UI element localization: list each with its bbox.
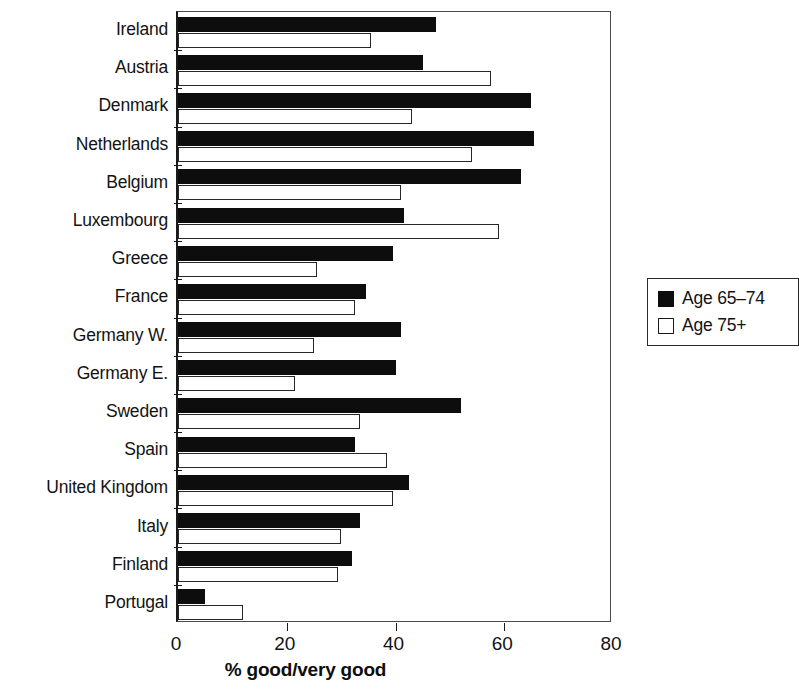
legend-entry-age-75-plus: Age 75+ (658, 312, 798, 339)
x-axis-tick-label-80: 80 (581, 633, 641, 655)
y-axis-tick (174, 508, 182, 509)
bar-spain-age-65-74 (178, 437, 355, 452)
bar-finland-age-65-74 (178, 551, 352, 566)
x-axis-tick-label-40: 40 (364, 633, 424, 655)
legend-label: Age 75+ (682, 315, 746, 336)
filled-square-icon (658, 291, 674, 307)
y-axis-tick (174, 203, 182, 204)
legend-label: Age 65–74 (682, 288, 765, 309)
x-axis-title: % good/very good (0, 659, 611, 681)
x-axis-tick-label-20: 20 (255, 633, 315, 655)
y-axis-tick (174, 470, 182, 471)
plot-area (176, 11, 611, 622)
x-axis-tick-60 (504, 623, 505, 631)
bar-portugal-age-65-74 (178, 589, 205, 604)
bar-germany-w--age-65-74 (178, 322, 401, 337)
category-label-finland: Finland (0, 554, 168, 575)
bar-austria-age-75-plus (178, 71, 491, 86)
chart-legend: Age 65–74Age 75+ (647, 278, 799, 346)
category-label-germany-w-: Germany W. (0, 325, 168, 346)
bar-finland-age-75-plus (178, 567, 338, 582)
y-axis-tick (174, 279, 182, 280)
legend-entry-age-65-74: Age 65–74 (658, 285, 798, 312)
y-axis-tick (174, 432, 182, 433)
bar-netherlands-age-65-74 (178, 131, 534, 146)
bar-denmark-age-65-74 (178, 93, 531, 108)
x-axis-tick-40 (396, 623, 397, 631)
x-axis-tick-20 (287, 623, 288, 631)
bar-belgium-age-75-plus (178, 185, 401, 200)
category-label-ireland: Ireland (0, 19, 168, 40)
bar-germany-e--age-65-74 (178, 360, 396, 375)
category-label-germany-e-: Germany E. (0, 363, 168, 384)
bar-france-age-65-74 (178, 284, 366, 299)
bar-sweden-age-75-plus (178, 414, 360, 429)
bar-sweden-age-65-74 (178, 398, 461, 413)
bar-germany-w--age-75-plus (178, 338, 314, 353)
outlined-square-icon (658, 318, 674, 334)
bar-greece-age-65-74 (178, 246, 393, 261)
category-label-sweden: Sweden (0, 401, 168, 422)
category-label-portugal: Portugal (0, 592, 168, 613)
category-label-greece: Greece (0, 248, 168, 269)
bar-italy-age-75-plus (178, 529, 341, 544)
y-axis-tick (174, 394, 182, 395)
bar-greece-age-75-plus (178, 262, 317, 277)
category-label-denmark: Denmark (0, 95, 168, 116)
bar-netherlands-age-75-plus (178, 147, 472, 162)
y-axis-tick (174, 547, 182, 548)
bar-germany-e--age-75-plus (178, 376, 295, 391)
bar-denmark-age-75-plus (178, 109, 412, 124)
category-label-netherlands: Netherlands (0, 134, 168, 155)
bar-united-kingdom-age-65-74 (178, 475, 409, 490)
y-axis-tick (174, 165, 182, 166)
y-axis-tick (174, 318, 182, 319)
x-axis-tick-label-60: 60 (472, 633, 532, 655)
y-axis-tick (174, 241, 182, 242)
category-label-luxembourg: Luxembourg (0, 210, 168, 231)
y-axis-tick (174, 356, 182, 357)
bar-ireland-age-75-plus (178, 33, 371, 48)
category-label-italy: Italy (0, 516, 168, 537)
category-label-belgium: Belgium (0, 172, 168, 193)
category-label-spain: Spain (0, 439, 168, 460)
y-axis-tick (174, 585, 182, 586)
y-axis-tick (174, 50, 182, 51)
y-axis-tick (174, 127, 182, 128)
bar-ireland-age-65-74 (178, 17, 436, 32)
bar-luxembourg-age-75-plus (178, 224, 499, 239)
y-axis-tick (174, 88, 182, 89)
bar-italy-age-65-74 (178, 513, 360, 528)
category-label-austria: Austria (0, 57, 168, 78)
bar-luxembourg-age-65-74 (178, 208, 404, 223)
bar-belgium-age-65-74 (178, 169, 521, 184)
bar-spain-age-75-plus (178, 453, 387, 468)
bar-austria-age-65-74 (178, 55, 423, 70)
category-label-france: France (0, 286, 168, 307)
bar-united-kingdom-age-75-plus (178, 491, 393, 506)
bar-france-age-75-plus (178, 300, 355, 315)
category-label-united-kingdom: United Kingdom (0, 477, 168, 498)
bar-portugal-age-75-plus (178, 605, 243, 620)
x-axis-tick-label-0: 0 (146, 633, 206, 655)
